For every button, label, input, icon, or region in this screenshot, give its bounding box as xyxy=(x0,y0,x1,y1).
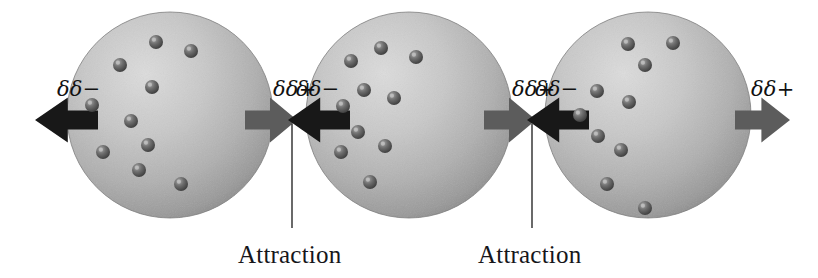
electron-highlight xyxy=(135,166,139,170)
electron-a1-7 xyxy=(141,138,155,152)
atom-group xyxy=(67,12,751,218)
electron-a1-4 xyxy=(145,80,159,94)
electron-a2-9 xyxy=(334,145,348,159)
charge-sign: + xyxy=(777,77,795,101)
electron-a2-5 xyxy=(387,91,401,105)
electron-highlight xyxy=(412,53,416,57)
electron-a2-1 xyxy=(374,41,388,55)
electron-a1-2 xyxy=(184,44,198,58)
label-negative-atom3: δδ− xyxy=(535,77,578,101)
electron-highlight xyxy=(576,111,580,115)
delta-symbols: δδ xyxy=(512,77,537,101)
figure-canvas: δδ−δδ+δδ−δδ+δδ−δδ+ AttractionAttraction xyxy=(0,0,818,278)
charge-sign: − xyxy=(83,77,101,101)
electron-highlight xyxy=(390,94,394,98)
electron-a3-1 xyxy=(621,37,635,51)
electron-highlight xyxy=(116,61,120,65)
electron-highlight xyxy=(88,101,92,105)
electron-highlight xyxy=(625,98,629,102)
electron-a1-8 xyxy=(96,145,110,159)
charge-sign: − xyxy=(561,77,579,101)
attraction-1-label: Attraction xyxy=(238,241,342,268)
electron-a3-5 xyxy=(622,95,636,109)
electron-highlight xyxy=(641,204,645,208)
electron-a1-10 xyxy=(174,177,188,191)
electron-a3-2 xyxy=(666,36,680,50)
electron-highlight xyxy=(624,40,628,44)
electron-highlight xyxy=(148,83,152,87)
electron-highlight xyxy=(377,44,381,48)
electron-a2-8 xyxy=(378,139,392,153)
electron-a2-3 xyxy=(344,54,358,68)
electron-a2-7 xyxy=(351,125,365,139)
delta-symbols: δδ xyxy=(57,77,82,101)
electron-a3-7 xyxy=(591,129,605,143)
electron-a3-6 xyxy=(573,108,587,122)
electron-highlight xyxy=(669,39,673,43)
electron-a3-4 xyxy=(590,84,604,98)
electron-a1-9 xyxy=(132,163,146,177)
electron-highlight xyxy=(127,117,131,121)
electron-highlight xyxy=(187,47,191,51)
electron-highlight xyxy=(617,146,621,150)
electron-highlight xyxy=(354,128,358,132)
attraction-2-label: Attraction xyxy=(478,241,582,268)
electron-a2-2 xyxy=(409,50,423,64)
electron-highlight xyxy=(593,87,597,91)
electron-a3-10 xyxy=(638,201,652,215)
electron-a1-3 xyxy=(113,58,127,72)
electron-highlight xyxy=(603,180,607,184)
delta-symbols: δδ xyxy=(535,77,560,101)
electron-a3-8 xyxy=(614,143,628,157)
delta-symbols: δδ xyxy=(296,77,321,101)
electron-a1-1 xyxy=(149,35,163,49)
electron-highlight xyxy=(594,132,598,136)
dispersion-force-diagram: δδ−δδ+δδ−δδ+δδ−δδ+ AttractionAttraction xyxy=(0,0,818,278)
electron-highlight xyxy=(99,148,103,152)
electron-highlight xyxy=(381,142,385,146)
electron-highlight xyxy=(152,38,156,42)
electron-highlight xyxy=(144,141,148,145)
charge-sign: − xyxy=(322,77,340,101)
label-negative-atom1: δδ− xyxy=(57,77,100,101)
delta-symbols: δδ xyxy=(751,77,776,101)
electron-a3-3 xyxy=(638,58,652,72)
label-negative-atom2: δδ− xyxy=(296,77,339,101)
electron-a1-6 xyxy=(124,114,138,128)
electron-highlight xyxy=(339,102,343,106)
label-positive-atom3: δδ+ xyxy=(751,77,794,101)
electron-a3-9 xyxy=(600,177,614,191)
electron-a2-4 xyxy=(357,83,371,97)
electron-highlight xyxy=(366,178,370,182)
electron-highlight xyxy=(347,57,351,61)
electron-highlight xyxy=(177,180,181,184)
electron-highlight xyxy=(337,148,341,152)
electron-highlight xyxy=(360,86,364,90)
electron-a2-6 xyxy=(336,99,350,113)
electron-highlight xyxy=(641,61,645,65)
electron-a2-10 xyxy=(363,175,377,189)
delta-symbols: δδ xyxy=(273,77,298,101)
